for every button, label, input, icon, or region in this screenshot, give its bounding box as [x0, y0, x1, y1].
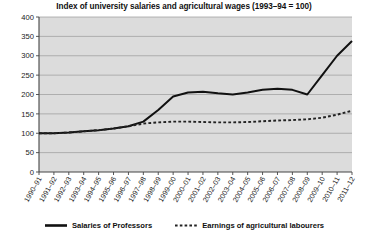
legend-swatch-solid-line: [44, 221, 68, 230]
line-chart-plot: 050100150200250300350400 1990–911991–921…: [0, 0, 368, 233]
y-tick-label: 300: [21, 51, 34, 60]
chart-figure: Index of university salaries and agricul…: [0, 0, 368, 233]
y-tick-label: 0: [30, 168, 34, 177]
y-tick-label: 100: [21, 129, 34, 138]
y-tick-label: 200: [21, 90, 34, 99]
y-tick-label: 150: [21, 110, 34, 119]
y-axis-tick-labels: 050100150200250300350400: [21, 13, 34, 177]
legend-item-earnings-of-agricultural-labourers: Earnings of agricultural labourers: [174, 221, 324, 230]
legend-swatch-dashed-line: [174, 221, 198, 230]
y-tick-label: 50: [26, 148, 34, 157]
x-axis-tick-labels: 1990–911991–921992–931993–941994–951995–…: [22, 175, 357, 204]
y-tick-label: 400: [21, 13, 34, 22]
legend-item-salaries-of-professors: Salaries of Professors: [44, 221, 152, 230]
y-tick-label: 350: [21, 32, 34, 41]
legend-label-earnings-of-agricultural-labourers: Earnings of agricultural labourers: [202, 221, 324, 230]
legend-label-salaries-of-professors: Salaries of Professors: [72, 221, 152, 230]
chart-legend: Salaries of Professors Earnings of agric…: [0, 218, 368, 233]
y-tick-label: 250: [21, 71, 34, 80]
